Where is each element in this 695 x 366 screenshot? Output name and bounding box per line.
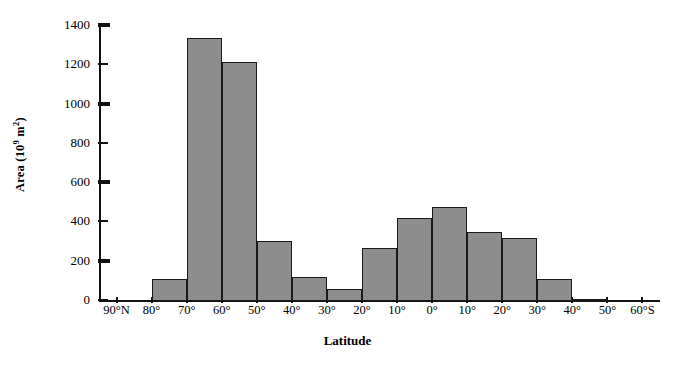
- y-tick-mark: [98, 142, 108, 144]
- plot-area: [99, 25, 660, 302]
- x-tick-label: 40°: [283, 303, 301, 318]
- y-tick-mark: [98, 220, 108, 222]
- bar: [467, 232, 502, 301]
- y-tick-label: 200: [71, 253, 91, 269]
- x-tick-label: 40°: [564, 303, 582, 318]
- y-tick-label: 1000: [64, 96, 90, 112]
- y-axis-tick-labels: 0200400600800100012001400: [34, 0, 96, 310]
- bar: [502, 238, 537, 301]
- x-tick-label: 90°N: [103, 303, 130, 318]
- bar: [572, 299, 607, 301]
- y-tick-label: 1400: [64, 17, 90, 33]
- y-tick-mark: [98, 102, 110, 106]
- x-tick-label: 30°: [318, 303, 336, 318]
- x-axis-title: Latitude: [0, 333, 695, 349]
- x-axis-tick-labels: 90°N80°70°60°50°40°30°20°10°0°10°20°30°4…: [99, 303, 660, 325]
- bar: [152, 279, 187, 301]
- bar: [222, 62, 257, 301]
- x-tick-label: 60°S: [630, 303, 654, 318]
- y-tick-mark: [98, 23, 110, 27]
- x-tick-label: 50°: [599, 303, 617, 318]
- x-tick-label: 30°: [529, 303, 547, 318]
- chart-figure: Area (109 m2) 0200400600800100012001400 …: [0, 0, 695, 366]
- x-tick-label: 0°: [426, 303, 437, 318]
- y-tick-mark: [98, 299, 108, 301]
- x-tick-label: 80°: [143, 303, 161, 318]
- x-tick-label: 70°: [178, 303, 196, 318]
- x-tick-label: 60°: [213, 303, 231, 318]
- x-tick-label: 20°: [353, 303, 371, 318]
- y-tick-label: 0: [84, 292, 91, 308]
- bar: [327, 289, 362, 301]
- y-tick-label: 800: [71, 135, 91, 151]
- bar: [187, 38, 222, 301]
- bar: [397, 218, 432, 301]
- bar: [432, 207, 467, 301]
- y-tick-label: 1200: [64, 56, 90, 72]
- bar: [257, 241, 292, 301]
- x-tick-label: 50°: [248, 303, 266, 318]
- y-tick-mark: [98, 63, 108, 65]
- y-axis-title: Area (109 m2): [6, 0, 32, 310]
- bar: [362, 248, 397, 301]
- x-tick-label: 20°: [493, 303, 511, 318]
- x-tick-label: 10°: [388, 303, 406, 318]
- y-tick-label: 400: [71, 213, 91, 229]
- y-tick-mark: [98, 180, 110, 184]
- bar: [292, 277, 327, 301]
- y-tick-mark: [98, 259, 110, 263]
- y-tick-label: 600: [71, 174, 91, 190]
- bar: [537, 279, 572, 301]
- x-tick-label: 10°: [458, 303, 476, 318]
